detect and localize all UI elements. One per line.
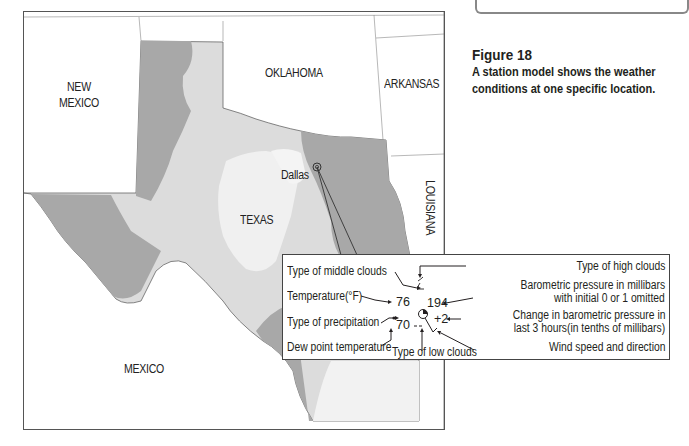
station-model-callout: Type of middle clouds Type of high cloud… <box>282 254 670 360</box>
label-pressure-line2: with initial 0 or 1 omitted <box>554 292 665 305</box>
label-new-mexico-line1: NEW <box>67 80 91 95</box>
figure-caption: Figure 18 A station model shows the weat… <box>472 46 672 97</box>
label-oklahoma: OKLAHOMA <box>265 66 323 81</box>
label-change-line2: last 3 hours(in tenths of millibars) <box>514 322 665 335</box>
value-pressure: 194 <box>427 297 448 310</box>
texas-map <box>23 11 445 430</box>
label-wind: Wind speed and direction <box>549 341 665 354</box>
label-mexico: MEXICO <box>124 362 164 377</box>
value-temperature: 76 <box>396 296 410 309</box>
label-new-mexico-line2: MEXICO <box>59 96 99 111</box>
value-dew-point: 70 <box>396 319 410 332</box>
label-middle-clouds: Type of middle clouds <box>287 265 387 278</box>
label-high-clouds: Type of high clouds <box>576 260 665 273</box>
value-pressure-change: +2 <box>434 313 448 326</box>
label-precipitation: Type of precipitation <box>287 316 379 329</box>
map-shading <box>24 12 444 429</box>
figure-description: A station model shows the weather condit… <box>472 64 666 97</box>
label-low-clouds: Type of low clouds <box>392 346 477 359</box>
label-temperature: Temperature(°F) <box>287 290 362 303</box>
label-dew-point: Dew point temperature <box>287 341 391 354</box>
label-louisiana: LOUISIANA <box>422 180 437 235</box>
previous-figure-box-edge <box>475 0 689 14</box>
label-arkansas: ARKANSAS <box>384 77 439 92</box>
figure-number: Figure 18 <box>472 46 652 64</box>
label-texas: TEXAS <box>240 213 273 228</box>
label-dallas: Dallas <box>281 168 309 183</box>
